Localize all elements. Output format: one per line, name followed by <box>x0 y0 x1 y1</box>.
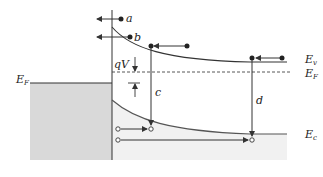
metal-region <box>30 83 112 160</box>
hole-d-start <box>116 138 120 142</box>
electron-d-source <box>280 56 285 61</box>
label-ev: Ev <box>304 53 317 67</box>
label-qv: qV <box>114 58 130 71</box>
hole-c-end <box>149 127 153 131</box>
electron-d <box>250 56 255 61</box>
label-ef-left: EF <box>15 73 30 87</box>
label-c: c <box>155 86 161 99</box>
electron-c <box>149 44 154 49</box>
label-ec: Ec <box>304 128 317 142</box>
electron-a <box>119 17 124 22</box>
label-b: b <box>134 31 141 44</box>
hole-d-end <box>250 138 254 142</box>
label-ef-right: EF <box>304 67 319 81</box>
band-diagram: a b c d qV EF Ev EF Ec <box>0 0 323 177</box>
electron-b <box>128 35 133 40</box>
hole-c-start <box>116 127 120 131</box>
electron-c-source <box>185 44 190 49</box>
label-d: d <box>256 94 263 107</box>
label-a: a <box>126 12 133 25</box>
